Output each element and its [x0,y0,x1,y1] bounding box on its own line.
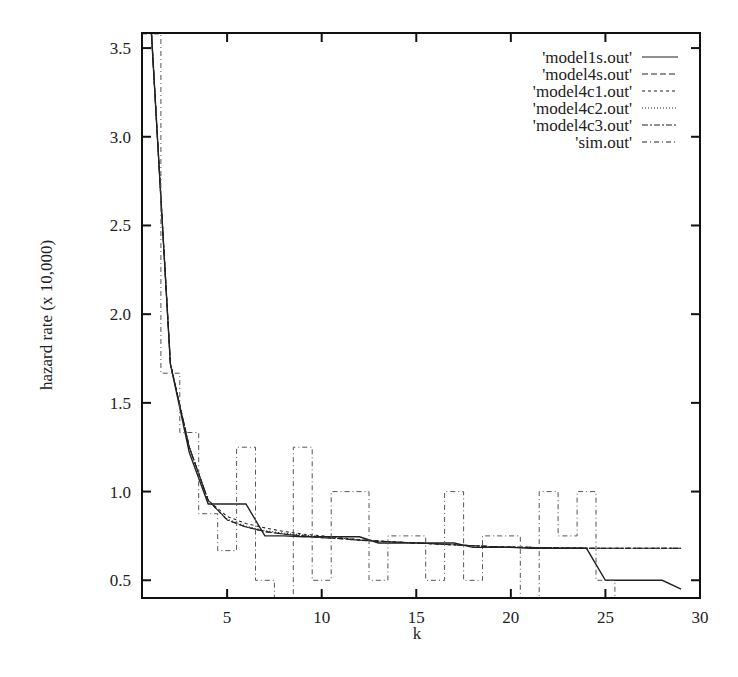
y-tick-label: 1.0 [110,483,131,502]
legend-label: 'sim.out' [575,133,632,152]
y-tick-label: 2.5 [110,216,131,235]
x-tick-label: 25 [597,608,614,627]
y-tick-label: 3.0 [110,128,131,147]
x-tick-label: 20 [502,608,519,627]
y-tick-label: 1.5 [110,394,131,413]
chart-canvas: 51015202530 0.51.01.52.02.53.03.5 k haza… [0,0,738,677]
x-tick-label: 30 [692,608,709,627]
y-axis-title: hazard rate (x 10,000) [37,240,56,390]
x-axis-ticks: 51015202530 [223,33,709,627]
x-tick-label: 10 [313,608,330,627]
legend: 'model1s.out''model4s.out''model4c1.out'… [533,48,678,152]
y-tick-label: 0.5 [110,571,131,590]
x-tick-label: 5 [223,608,232,627]
y-tick-label: 3.5 [110,39,131,58]
x-axis-title: k [413,624,422,643]
y-tick-label: 2.0 [110,305,131,324]
